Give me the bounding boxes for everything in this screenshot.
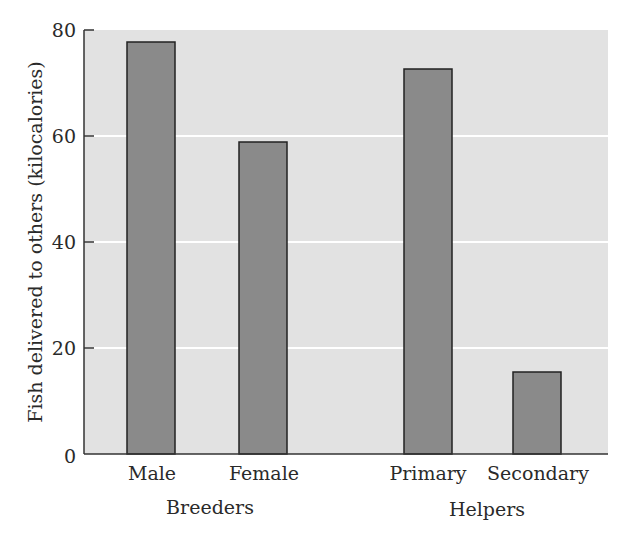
- category-label-secondary: Secondary: [487, 462, 589, 484]
- bar-chart: 80 60 40 20 0 Fish delivered to others (…: [0, 0, 629, 540]
- bar-male: [127, 42, 175, 454]
- bar-female: [239, 142, 287, 454]
- bar-primary: [404, 69, 452, 454]
- category-label-male: Male: [128, 462, 176, 484]
- category-label-female: Female: [229, 462, 299, 484]
- y-tick-label-20: 20: [52, 337, 76, 359]
- y-tick-label-80: 80: [52, 19, 76, 41]
- bar-secondary: [513, 372, 561, 454]
- group-label-breeders: Breeders: [166, 496, 254, 518]
- group-label-helpers: Helpers: [449, 498, 525, 520]
- y-tick-label-0: 0: [64, 445, 76, 467]
- y-tick-label-60: 60: [52, 125, 76, 147]
- y-tick-label-40: 40: [52, 231, 76, 253]
- category-label-primary: Primary: [389, 462, 466, 484]
- y-axis-title: Fish delivered to others (kilocalories): [24, 61, 46, 422]
